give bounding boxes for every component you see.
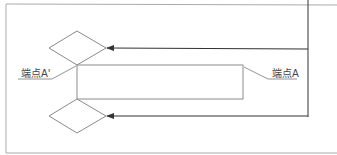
label-endpoint-a-prime: 端点A' bbox=[21, 67, 51, 79]
center-rectangle bbox=[77, 65, 243, 99]
top-diamond bbox=[49, 31, 106, 65]
label-endpoint-a: 端点A bbox=[272, 67, 299, 79]
diagram-canvas: 端点A' 端点A bbox=[0, 0, 337, 155]
top-arrow bbox=[107, 48, 308, 49]
bottom-diamond bbox=[49, 99, 106, 133]
